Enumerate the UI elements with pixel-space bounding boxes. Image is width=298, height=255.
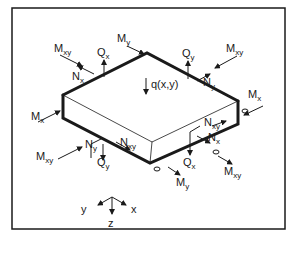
svg-text:Qx: Qx (97, 46, 110, 61)
axis-y-label: y (81, 203, 87, 215)
svg-text:Qy: Qy (182, 47, 195, 62)
coordinate-axes (98, 197, 126, 214)
svg-text:Mxy: Mxy (226, 42, 243, 57)
svg-text:Mxy: Mxy (224, 165, 241, 180)
svg-text:Qx: Qx (183, 156, 196, 171)
svg-text:Qy: Qy (97, 156, 110, 171)
axis-z-label: z (108, 217, 114, 229)
force-labels: Mxy Nx Qx My Qy Mxy Ny Mx Mx Nxy Nx Qx M… (31, 32, 261, 191)
svg-text:Nx: Nx (72, 70, 84, 85)
svg-text:My: My (176, 176, 189, 191)
svg-text:Mx: Mx (31, 110, 44, 125)
svg-text:My: My (117, 32, 130, 47)
load-label: q(x,y) (151, 78, 179, 90)
svg-text:Mxy: Mxy (36, 150, 53, 165)
svg-text:Nxy: Nxy (204, 116, 220, 131)
svg-text:Mx: Mx (248, 88, 261, 103)
plate-diagram: q(x,y) Mxy Nx Qx My Qy Mxy Ny Mx Mx Nxy (0, 0, 298, 255)
axis-x-label: x (131, 203, 137, 215)
figure-frame (12, 8, 285, 229)
svg-text:Mxy: Mxy (54, 42, 71, 57)
svg-text:Ny: Ny (203, 76, 215, 91)
